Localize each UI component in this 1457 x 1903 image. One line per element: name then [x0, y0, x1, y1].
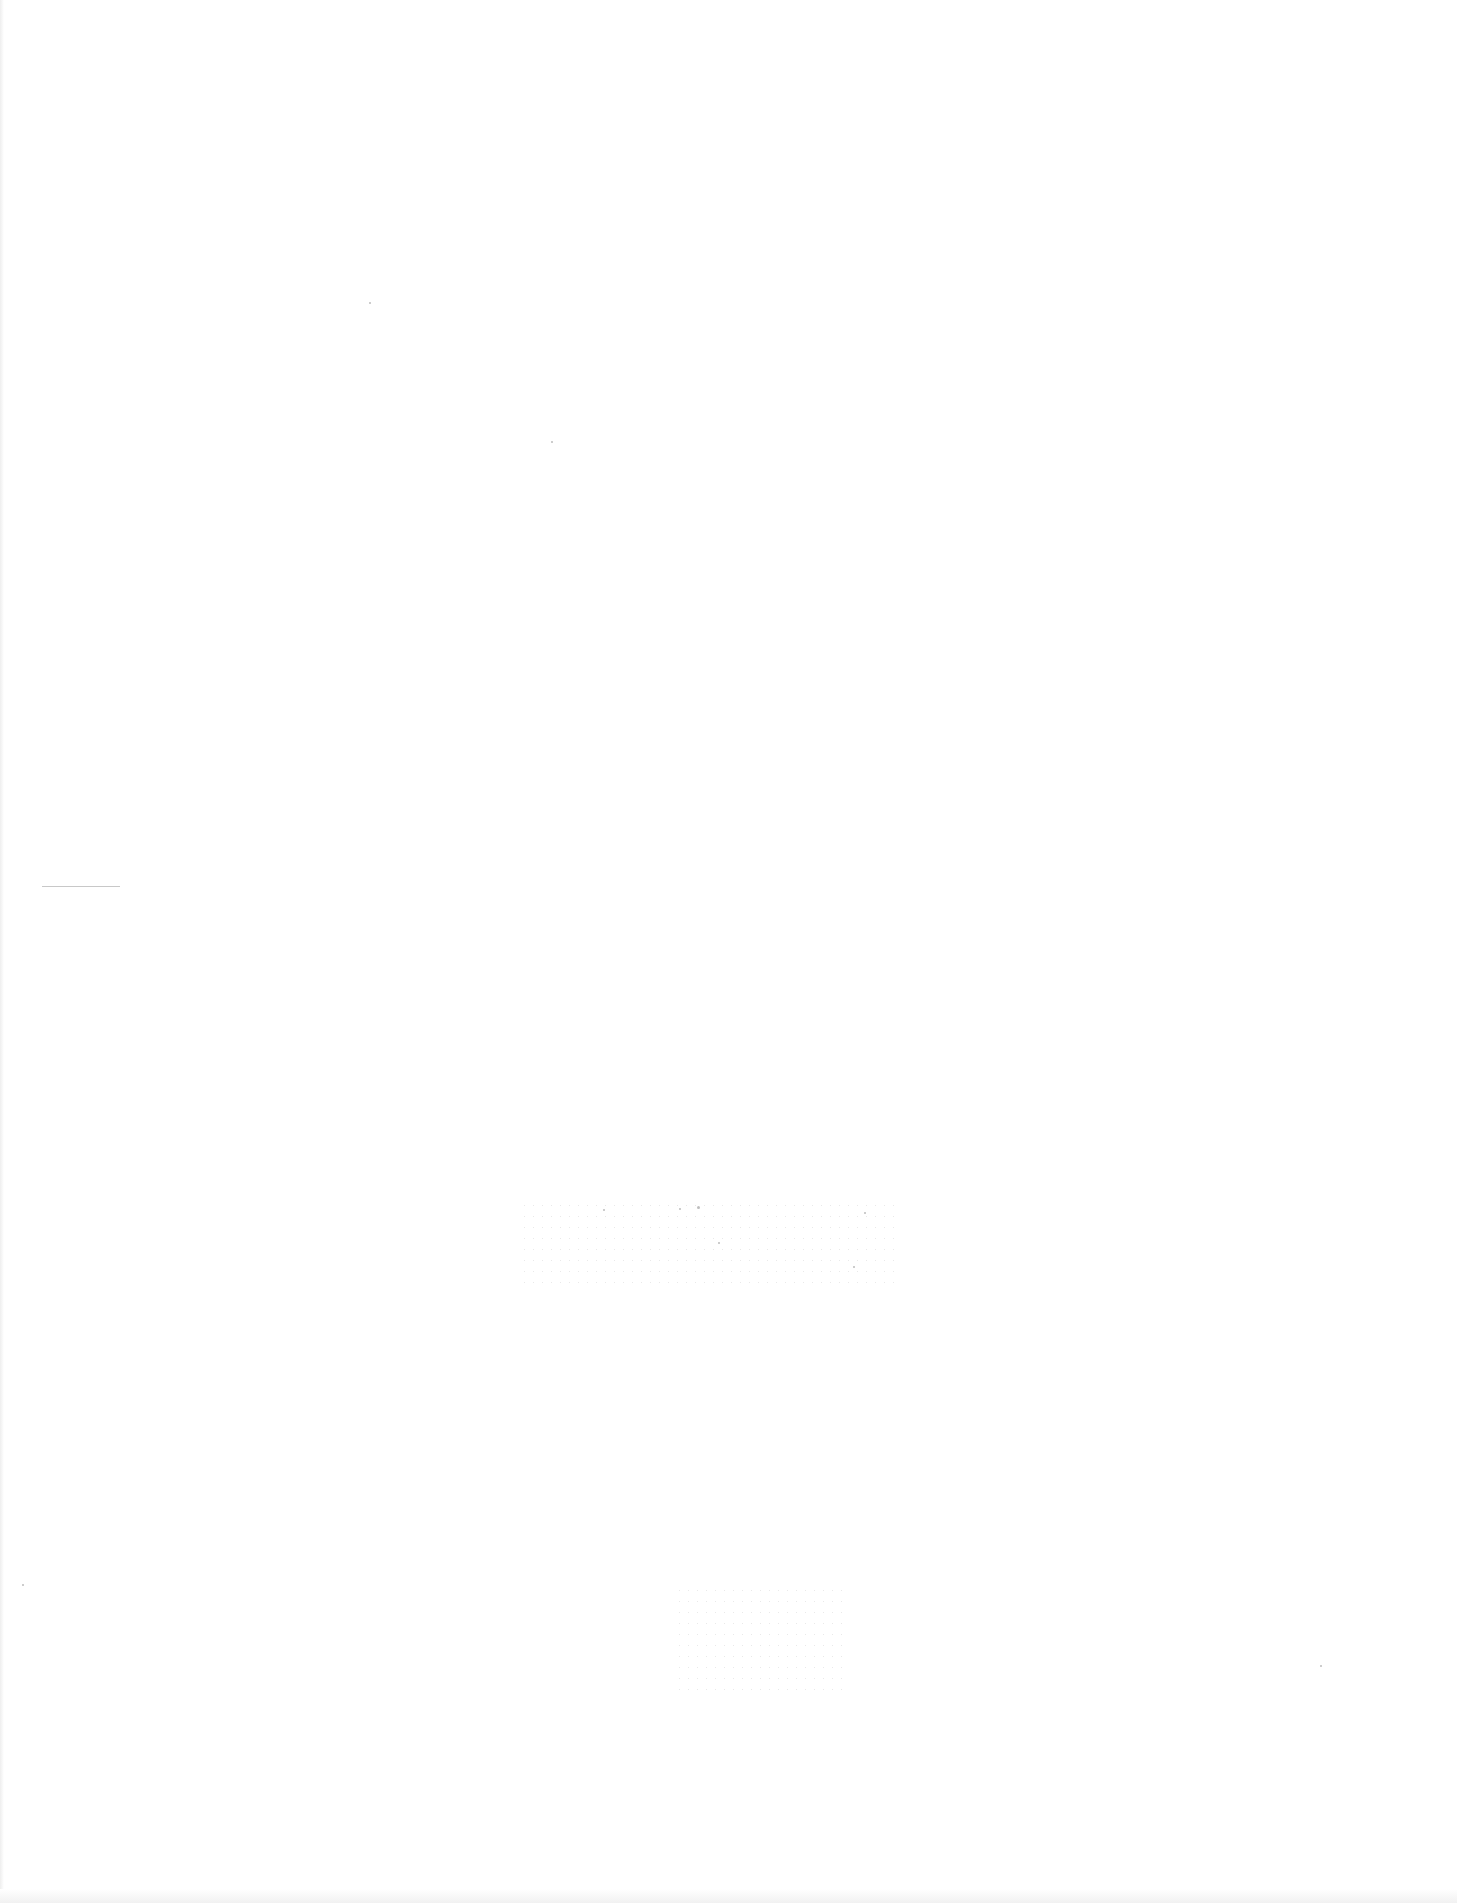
blank-scanned-page	[0, 0, 1457, 1903]
scan-noise-patch	[520, 1200, 900, 1290]
scan-speckle	[22, 1584, 24, 1586]
scan-edge-shadow-left	[0, 0, 4, 1903]
scan-speckle	[369, 302, 371, 304]
scan-noise-patch	[675, 1585, 845, 1690]
scan-stroke-mark	[42, 886, 120, 887]
scan-edge-shadow-bottom	[0, 1889, 1457, 1903]
scan-speckle	[551, 441, 553, 443]
scan-speckle	[1320, 1665, 1322, 1667]
